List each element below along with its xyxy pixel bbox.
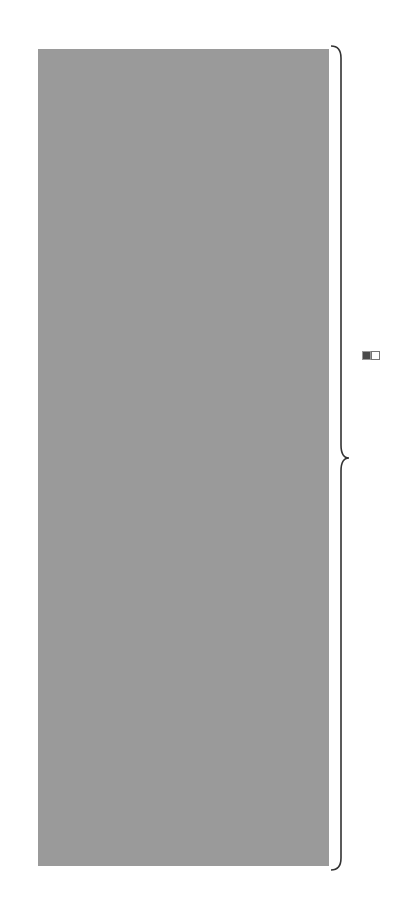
legend-item-chain (371, 349, 380, 360)
chain-swatch-icon (371, 351, 380, 360)
rose-motif-grid (38, 49, 329, 866)
legend (362, 349, 380, 360)
legend-item-double (362, 349, 371, 360)
row-labels-odd (38, 10, 329, 40)
double-swatch-icon (362, 351, 371, 360)
stitch-span-brace (329, 40, 359, 876)
row-labels-even (38, 868, 329, 898)
